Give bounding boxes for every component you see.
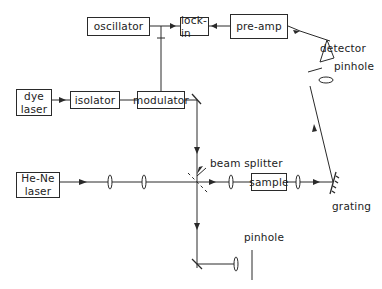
lock-in-label: lock-in	[181, 14, 208, 40]
grating-label: grating	[332, 200, 371, 212]
lens-2	[142, 175, 146, 189]
arrow-icon	[211, 23, 217, 29]
dye-laser-box: dyelaser	[16, 89, 52, 116]
oscillator-label: oscillator	[94, 20, 144, 33]
hene-laser-label-1: He-Ne	[21, 172, 54, 185]
arrow-icon	[194, 147, 200, 154]
pinhole-bottom-label: pinhole	[244, 231, 284, 243]
oscillator-box: oscillator	[87, 17, 150, 36]
modulator-label: modulator	[133, 94, 189, 107]
dye-laser-label-1: dye	[24, 90, 44, 103]
pinhole-top	[308, 68, 322, 72]
arrow-icon	[313, 179, 320, 185]
detector-label: detector	[320, 42, 366, 54]
beam-splitter-label: beam splitter	[210, 157, 283, 169]
beam-splitter	[188, 173, 208, 193]
arrow-icon	[59, 97, 66, 103]
modulator-box: modulator	[137, 91, 185, 109]
sample-box: sample	[251, 173, 287, 191]
lens-3	[229, 175, 233, 189]
lock-in-box: lock-in	[180, 17, 209, 36]
lens-4	[296, 175, 300, 189]
sample-label: sample	[249, 176, 288, 189]
dye-laser-label-2: laser	[21, 103, 48, 116]
hene-laser-label-2: laser	[25, 185, 52, 198]
lens-6	[319, 77, 333, 83]
lens-5	[234, 257, 238, 271]
hene-laser-box: He-Nelaser	[16, 172, 60, 198]
wire-detector-preamp	[288, 26, 330, 41]
arrow-icon	[312, 124, 317, 132]
arrow-icon	[209, 179, 216, 185]
pre-amp-label: pre-amp	[236, 20, 282, 33]
lens-1	[108, 175, 112, 189]
arrow-icon	[79, 179, 87, 185]
beam-grating-detector	[310, 86, 333, 182]
isolator-label: isolator	[75, 94, 116, 107]
pinhole-top-label: pinhole	[334, 60, 374, 72]
arrow-icon	[194, 223, 200, 230]
pre-amp-box: pre-amp	[230, 14, 288, 39]
arrow-icon	[170, 23, 176, 29]
isolator-box: isolator	[70, 91, 120, 109]
